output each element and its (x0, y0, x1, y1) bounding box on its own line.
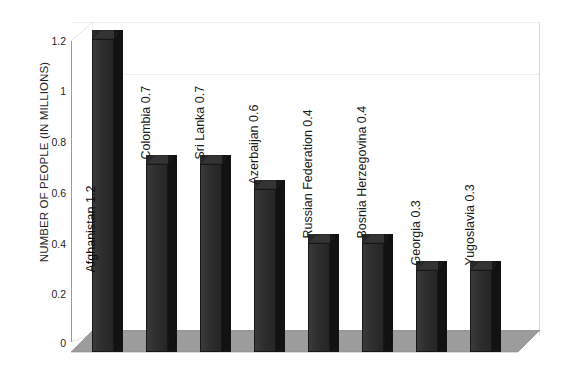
y-tick-label: 0.6 (30, 188, 66, 199)
bar-front-face (200, 164, 222, 352)
bar-front-face (308, 243, 330, 352)
bar-side-face (168, 155, 177, 352)
bar-front-face (254, 189, 276, 352)
y-tick-label: 1.2 (30, 36, 66, 47)
bar-value-label: Georgia 0.3 (410, 200, 423, 265)
bar-value-label: Sri Lanka 0.7 (194, 86, 207, 160)
bar-front-face (362, 243, 384, 352)
bar-front-face (146, 164, 168, 352)
y-tick-label: 0 (30, 338, 66, 349)
bar-value-label: Russian Federation 0.4 (302, 109, 315, 238)
bar-azerbaijan[interactable]: Azerbaijan 0.6 (254, 180, 276, 352)
y-tick-label: 1 (30, 86, 66, 97)
plot-left-wall (71, 22, 93, 342)
bar-georgia[interactable]: Georgia 0.3 (416, 261, 438, 352)
y-axis-tick-labels: 1.2 1 0.8 0.6 0.4 0.2 0 (26, 0, 66, 373)
y-tick-label: 0.2 (30, 289, 66, 300)
bar-side-face (438, 261, 447, 352)
bar-side-face (276, 180, 285, 352)
bar-colombia[interactable]: Colombia 0.7 (146, 155, 168, 352)
bar-sri-lanka[interactable]: Sri Lanka 0.7 (200, 155, 222, 352)
gridline (93, 74, 539, 75)
bar-russian-federation[interactable]: Russian Federation 0.4 (308, 234, 330, 352)
y-tick-label: 0.4 (30, 239, 66, 250)
bar-side-face (330, 234, 339, 352)
bar-side-face (384, 234, 393, 352)
bar-value-label: Colombia 0.7 (140, 86, 153, 160)
bar-chart: NUMBER OF PEOPLE (IN MILLIONS) 1.2 1 0.8… (0, 0, 572, 373)
bar-front-face (416, 270, 438, 352)
y-tick-label: 0.8 (30, 137, 66, 148)
y-axis-line (71, 41, 72, 342)
bar-front-face (470, 270, 492, 352)
bar-bosnia-herzegovina[interactable]: Bosnia Herzegovina 0.4 (362, 234, 384, 352)
bar-value-label: Afghanistan 1.2 (85, 186, 98, 273)
bar-yugoslavia[interactable]: Yugoslavia 0.3 (470, 261, 492, 352)
bar-side-face (222, 155, 231, 352)
bar-value-label: Bosnia Herzegovina 0.4 (356, 106, 369, 239)
bar-side-face (114, 30, 123, 352)
bar-value-label: Yugoslavia 0.3 (464, 184, 477, 265)
bar-value-label: Azerbaijan 0.6 (248, 105, 261, 185)
bar-afghanistan[interactable]: Afghanistan 1.2 (92, 30, 114, 352)
bar-side-face (492, 261, 501, 352)
